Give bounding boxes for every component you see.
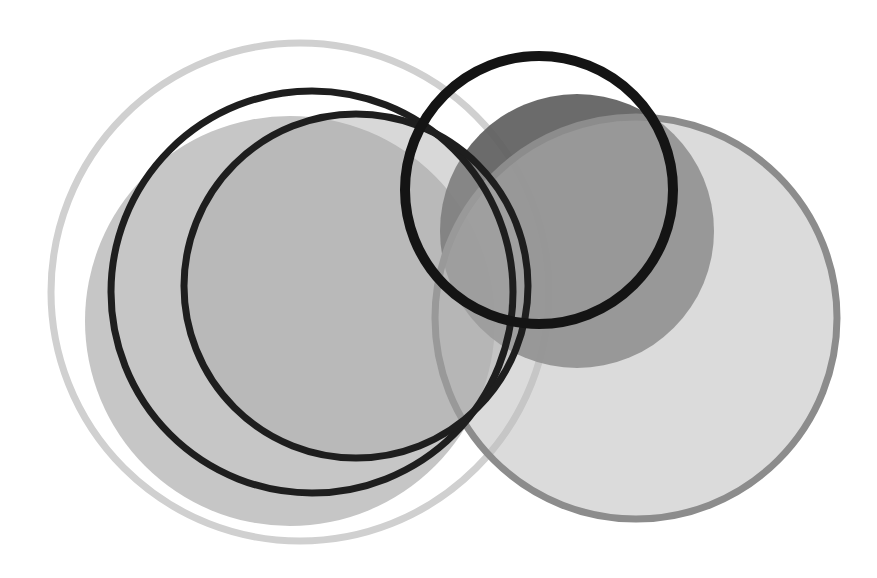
overlapping-circles-artwork [0,0,877,578]
